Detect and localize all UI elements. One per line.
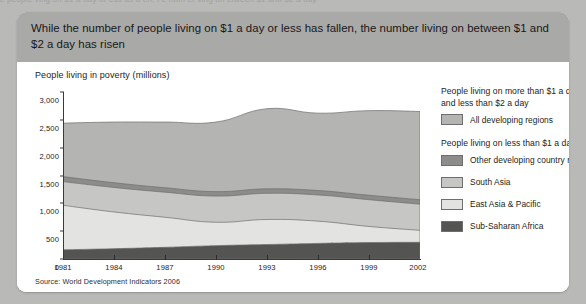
legend-swatch-icon: [441, 155, 463, 166]
page-top-cut-text: e people ving on $1 a day or ess as a en…: [0, 0, 586, 10]
chart-axis-title: People living in poverty (millions): [35, 70, 170, 80]
figure-panel: While the number of people living on $1 …: [17, 12, 569, 292]
figure-header-title: While the number of people living on $1 …: [17, 12, 569, 62]
y-tick-mark: [60, 203, 64, 204]
y-tick-label: 1,000: [39, 207, 59, 216]
legend-item-label: All developing regions: [470, 115, 553, 125]
legend-group-heading: People living on less than $1 a day: [441, 138, 569, 150]
y-tick-mark: [60, 259, 64, 260]
legend-swatch-icon: [441, 114, 463, 125]
legend-item-east-asia-pacific[interactable]: East Asia & Pacific: [441, 199, 569, 210]
x-tick-label: 2002: [409, 263, 426, 272]
legend-group-1: People living on more than $1 a day and …: [441, 86, 569, 125]
y-tick-mark: [60, 175, 64, 176]
figure-body: People living in poverty (millions) 0500…: [17, 62, 569, 292]
x-tick-label: 1999: [360, 263, 377, 272]
x-tick-mark: [216, 255, 217, 260]
legend-swatch-icon: [441, 177, 463, 188]
x-tick-mark: [165, 255, 166, 260]
y-tick-mark: [60, 231, 64, 232]
legend-item-all-developing-regions[interactable]: All developing regions: [441, 114, 569, 125]
x-tick-label: 1993: [258, 263, 275, 272]
legend-item-label: Sub-Saharan Africa: [470, 221, 544, 231]
stacked-area-svg: [63, 92, 420, 259]
legend-swatch-icon: [441, 199, 463, 210]
legend-item-sub-saharan-africa[interactable]: Sub-Saharan Africa: [441, 221, 569, 232]
plot-wrapper: 05001,0001,5002,0002,5003,000 1981198419…: [31, 84, 431, 264]
x-tick-label: 1984: [105, 263, 122, 272]
x-tick-mark: [114, 255, 115, 260]
chart-legend: People living on more than $1 a day and …: [441, 86, 569, 245]
legend-item-south-asia[interactable]: South Asia: [441, 177, 569, 188]
x-tick-label: 1981: [54, 263, 71, 272]
y-tick-mark: [60, 92, 64, 93]
legend-item-label: East Asia & Pacific: [470, 199, 541, 209]
x-axis-line: [63, 259, 421, 260]
x-tick-mark: [267, 255, 268, 260]
legend-group-2: People living on less than $1 a dayOther…: [441, 138, 569, 232]
source-note: Source: World Development Indicators 200…: [35, 277, 180, 286]
y-tick-mark: [60, 119, 64, 120]
x-tick-mark: [369, 255, 370, 260]
x-tick-label: 1990: [207, 263, 224, 272]
legend-group-heading: People living on more than $1 a day and …: [441, 86, 569, 109]
legend-item-label: South Asia: [470, 177, 511, 187]
y-tick-label: 1,500: [39, 179, 59, 188]
y-tick-label: 3,000: [39, 96, 59, 105]
legend-swatch-icon: [441, 221, 463, 232]
y-tick-label: 500: [46, 235, 59, 244]
stacked-area-plot: [63, 92, 420, 259]
legend-item-other-developing-country-regions[interactable]: Other developing country regions: [441, 155, 569, 166]
y-tick-label: 2,000: [39, 151, 59, 160]
x-tick-mark: [318, 255, 319, 260]
x-tick-label: 1987: [156, 263, 173, 272]
x-tick-label: 1996: [309, 263, 326, 272]
legend-item-label: Other developing country regions: [470, 155, 569, 165]
y-tick-mark: [60, 147, 64, 148]
y-tick-label: 2,500: [39, 123, 59, 132]
